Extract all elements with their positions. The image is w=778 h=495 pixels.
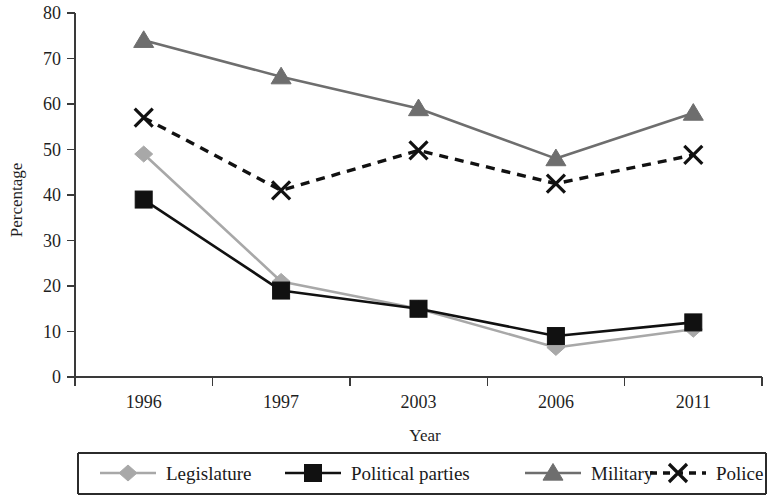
square-marker: [410, 300, 427, 317]
x-tick-label: 2011: [676, 392, 711, 412]
chart-legend: LegislaturePolitical partiesMilitaryPoli…: [78, 453, 766, 494]
y-tick-label: 70: [43, 49, 61, 69]
triangle-marker: [683, 104, 703, 121]
square-marker: [305, 465, 322, 482]
triangle-marker: [134, 31, 154, 48]
legend-item-political-parties[interactable]: Political parties: [285, 463, 470, 484]
x-tick-label: 2003: [401, 392, 437, 412]
x-axis-ticks: 19961997200320062011: [75, 377, 762, 412]
y-tick-label: 0: [52, 367, 61, 387]
chart-figure: 01020304050607080 Percentage 19961997200…: [0, 0, 778, 495]
legend-label: Political parties: [351, 463, 470, 484]
cross-marker: [272, 181, 290, 199]
y-tick-label: 50: [43, 140, 61, 160]
square-marker: [547, 328, 564, 345]
series-group: [134, 31, 704, 356]
series-line: [144, 154, 694, 347]
series-police: [135, 109, 703, 200]
x-tick-label: 2006: [538, 392, 574, 412]
legend-label: Police: [716, 463, 764, 484]
square-marker: [135, 191, 152, 208]
y-tick-label: 60: [43, 94, 61, 114]
x-axis-title: Year: [409, 426, 441, 445]
y-tick-label: 30: [43, 231, 61, 251]
square-marker: [273, 282, 290, 299]
cross-marker: [684, 146, 702, 164]
y-axis-title: Percentage: [7, 163, 26, 238]
cross-marker: [135, 109, 153, 127]
y-tick-label: 80: [43, 3, 61, 23]
x-axis: 19961997200320062011 Year: [75, 377, 762, 445]
y-axis-ticks: 01020304050607080: [43, 3, 75, 387]
legend-label: Military: [591, 463, 654, 484]
x-tick-label: 1997: [263, 392, 299, 412]
legend-label: Legislature: [166, 463, 251, 484]
x-tick-label: 1996: [126, 392, 162, 412]
series-military: [134, 31, 704, 166]
series-political-parties: [135, 191, 702, 344]
line-chart: 01020304050607080 Percentage 19961997200…: [0, 0, 778, 495]
y-axis: 01020304050607080 Percentage: [7, 3, 75, 387]
y-tick-label: 20: [43, 276, 61, 296]
y-tick-label: 10: [43, 322, 61, 342]
square-marker: [685, 314, 702, 331]
series-line: [144, 118, 694, 191]
y-tick-label: 40: [43, 185, 61, 205]
